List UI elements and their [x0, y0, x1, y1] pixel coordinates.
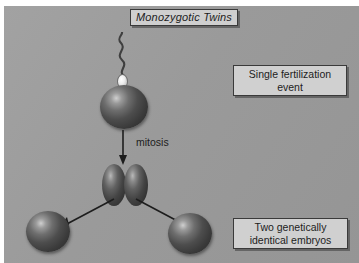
- mitosis-label: mitosis: [136, 136, 169, 148]
- page-title: Monozygotic Twins: [131, 11, 237, 24]
- fertilization-label-box: Single fertilization event: [233, 65, 347, 96]
- figure-title-box: Monozygotic Twins: [130, 9, 238, 26]
- fertilization-label-text: Single fertilization event: [234, 68, 346, 92]
- mitosis-arrow-icon: [110, 130, 136, 166]
- embryos-label-line1: Two genetically: [236, 221, 345, 233]
- embryo-cell-right: [168, 213, 212, 254]
- fertilization-label-line1: Single fertilization: [236, 68, 344, 80]
- sperm-tail-icon: [110, 32, 136, 77]
- embryos-label-text: Two genetically identical embryos: [234, 221, 347, 245]
- embryos-label-box: Two genetically identical embryos: [233, 218, 348, 249]
- embryo-cell-left: [26, 211, 70, 252]
- fertilization-label-line2: event: [236, 81, 344, 93]
- embryos-label-line2: identical embryos: [236, 234, 345, 246]
- diagram-panel: Monozygotic Twins mitosis: [4, 6, 359, 263]
- zygote-cell: [100, 85, 148, 129]
- monozygotic-twins-figure: Monozygotic Twins mitosis: [0, 0, 359, 263]
